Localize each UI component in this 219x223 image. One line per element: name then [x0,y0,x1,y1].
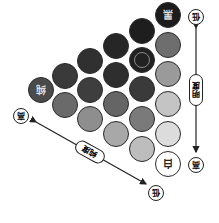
tone-circle [155,121,181,147]
tone-circle [77,48,103,74]
tone-circle [155,91,181,117]
tone-circle [77,77,103,103]
circle-label: 白 [163,157,173,172]
tone-circle [129,18,155,44]
highlight-ring [134,52,150,68]
tone-circle [52,63,78,89]
tone-circle-black: 黑 [155,2,181,28]
tone-circle [103,62,129,88]
tone-circle [77,106,103,132]
vertical-axis-label: 明度 [189,74,203,106]
tone-circle [129,136,155,162]
circle-label: 黑 [163,8,173,23]
circle-label: 纯 [36,83,46,98]
tone-circle [129,76,155,102]
vertical-bottom-label: 高 [188,157,204,173]
diagonal-right-label: 低 [148,185,164,201]
tone-circle [155,32,181,58]
tone-circle [129,106,155,132]
tone-circle [103,33,129,59]
tone-circle [155,61,181,87]
tone-circle-white: 白 [155,151,181,177]
tone-circle [52,92,78,118]
tone-circle [129,47,155,73]
tone-circle [103,121,129,147]
tone-circle [103,91,129,117]
tone-circle-pure: 纯 [28,77,54,103]
diagonal-left-label: 高 [13,108,29,124]
vertical-top-label: 低 [188,9,204,25]
